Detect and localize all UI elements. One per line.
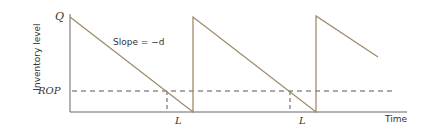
l-label-2: L xyxy=(299,115,306,126)
l-label-1: L xyxy=(175,115,182,126)
y-axis-label: Inventory level xyxy=(32,17,42,97)
time-label: Time xyxy=(385,114,407,124)
inventory-line xyxy=(70,16,378,112)
inventory-chart xyxy=(0,0,430,135)
slope-annotation: Slope = −d xyxy=(113,37,165,47)
q-label: Q xyxy=(55,10,64,23)
